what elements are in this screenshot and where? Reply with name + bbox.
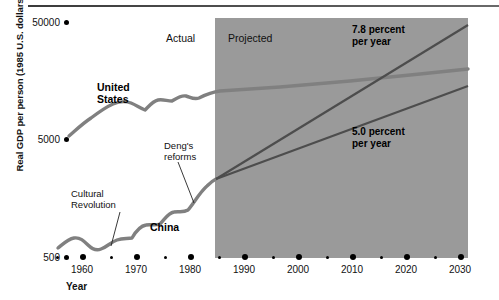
series-label-china: China [150, 222, 179, 234]
leader-line-dengs-reforms [178, 162, 194, 203]
series-label-united-states-line2: States [97, 93, 129, 105]
rate-label-low-line1: 5.0 percent [352, 126, 405, 137]
annotation-cultural-revolution-line2: Revolution [71, 199, 116, 210]
rate-label-high: 7.8 percent per year [352, 24, 405, 47]
chart-plot-area [0, 0, 499, 300]
annotation-dengs-reforms-line1: Deng's [164, 140, 193, 151]
projection-line-low [216, 86, 468, 179]
annotation-cultural-revolution-line1: Cultural [71, 188, 104, 199]
chart-figure: Actual Projected Real GDP per person (19… [0, 0, 499, 300]
annotation-cultural-revolution: Cultural Revolution [71, 188, 116, 210]
rate-label-low: 5.0 percent per year [352, 126, 405, 149]
projection-line-high [216, 25, 468, 179]
rate-label-high-line1: 7.8 percent [352, 24, 405, 35]
series-label-united-states: United States [97, 82, 130, 105]
annotation-dengs-reforms-line2: reforms [164, 151, 196, 162]
series-label-united-states-line1: United [97, 81, 130, 93]
annotation-dengs-reforms: Deng's reforms [164, 140, 196, 162]
rate-label-low-line2: per year [352, 138, 391, 149]
rate-label-high-line2: per year [352, 36, 391, 47]
